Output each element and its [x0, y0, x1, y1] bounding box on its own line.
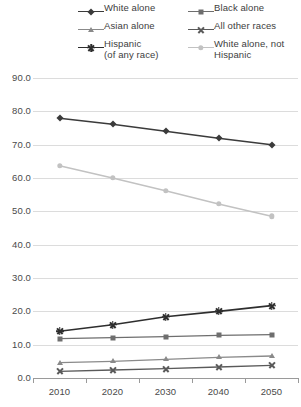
x-axis-tick: [33, 378, 34, 383]
data-point-marker: [269, 353, 275, 358]
data-point-marker: [163, 188, 168, 193]
x-marker-icon: [197, 26, 205, 34]
legend-item[interactable]: All other races: [188, 21, 276, 35]
legend-item[interactable]: Asian alone: [78, 21, 155, 35]
chart-legend: White aloneBlack aloneAsian aloneAll oth…: [78, 3, 298, 61]
data-point-marker: [268, 141, 275, 148]
series-markers: [33, 78, 298, 378]
y-axis-labels: 0.010.020.030.040.050.060.070.080.090.0: [0, 78, 31, 378]
legend-swatch: [78, 42, 104, 53]
data-point-marker: [56, 115, 63, 122]
data-point-marker: [269, 332, 274, 337]
data-point-marker: [216, 333, 221, 338]
x-axis-tick: [86, 378, 87, 383]
legend-item[interactable]: White alone, not Hispanic: [188, 39, 284, 60]
x-axis-tick: [298, 378, 299, 383]
y-axis-tick-label: 50.0: [1, 205, 31, 216]
data-point-marker: [163, 356, 169, 361]
data-point-marker: [56, 327, 64, 335]
data-point-marker: [216, 201, 221, 206]
triangle-marker-icon: [88, 27, 94, 32]
legend-item[interactable]: Hispanic (of any race): [78, 39, 159, 60]
legend-item[interactable]: Black alone: [188, 3, 264, 17]
legend-label: All other races: [214, 21, 276, 32]
x-axis-tick-label: 2050: [252, 386, 292, 397]
legend-label: Hispanic (of any race): [104, 39, 159, 60]
square-marker-icon: [199, 9, 204, 14]
legend-swatch: [188, 6, 214, 17]
data-point-marker: [162, 313, 170, 321]
data-point-marker: [56, 367, 64, 375]
data-point-marker: [269, 214, 274, 219]
legend-label: Asian alone: [104, 21, 155, 32]
x-axis-tick: [139, 378, 140, 383]
legend-item[interactable]: White alone: [78, 3, 155, 17]
data-point-marker: [109, 121, 116, 128]
data-point-marker: [216, 354, 222, 359]
legend-swatch: [188, 42, 214, 53]
data-point-marker: [162, 128, 169, 135]
data-point-marker: [110, 358, 116, 363]
x-axis-tick-label: 2030: [146, 386, 186, 397]
legend-swatch: [78, 24, 104, 35]
data-point-marker: [215, 135, 222, 142]
data-point-marker: [109, 321, 117, 329]
legend-swatch: [78, 6, 104, 17]
y-axis-tick-label: 40.0: [1, 239, 31, 250]
y-axis-tick-label: 80.0: [1, 105, 31, 116]
y-axis-tick-label: 60.0: [1, 172, 31, 183]
data-point-marker: [215, 363, 223, 371]
x-axis-tick-label: 2020: [93, 386, 133, 397]
data-point-marker: [268, 361, 276, 369]
legend-swatch: [188, 24, 214, 35]
legend-label: White alone: [104, 3, 155, 14]
plot-area: [33, 78, 298, 378]
data-point-marker: [57, 360, 63, 365]
data-point-marker: [268, 302, 276, 310]
data-point-marker: [57, 163, 62, 168]
x-axis-line: [33, 378, 298, 379]
y-axis-tick-label: 10.0: [1, 339, 31, 350]
circle-marker-icon: [198, 45, 203, 50]
x-axis-tick: [245, 378, 246, 383]
data-point-marker: [110, 335, 115, 340]
data-point-marker: [109, 366, 117, 374]
y-axis-tick-label: 70.0: [1, 139, 31, 150]
data-point-marker: [57, 336, 62, 341]
legend-label: Black alone: [214, 3, 264, 14]
y-axis-tick-label: 30.0: [1, 272, 31, 283]
data-point-marker: [163, 334, 168, 339]
y-axis-tick-label: 90.0: [1, 72, 31, 83]
x-axis-tick-label: 2010: [40, 386, 80, 397]
star-marker-icon: [87, 44, 95, 52]
legend-label: White alone, not Hispanic: [214, 39, 284, 60]
data-point-marker: [215, 307, 223, 315]
diamond-marker-icon: [87, 8, 94, 15]
y-axis-tick-label: 0.0: [1, 372, 31, 383]
x-axis-tick-label: 2040: [199, 386, 239, 397]
y-axis-tick-label: 20.0: [1, 305, 31, 316]
data-point-marker: [110, 175, 115, 180]
data-point-marker: [162, 365, 170, 373]
x-axis-tick: [192, 378, 193, 383]
